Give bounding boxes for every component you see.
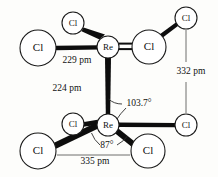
atom-label: Cl <box>182 120 191 130</box>
structure-canvas: Cl Cl Re Cl Cl Cl <box>0 0 218 177</box>
angle-re-re-cl: 103.7° <box>126 98 151 108</box>
atom-label: Cl <box>69 119 78 129</box>
bond-re-upper-cl-right-big-a <box>119 43 133 45</box>
atom-cl-top-small: Cl <box>62 12 84 34</box>
bond-re-lower-cl-mid-right <box>119 122 176 127</box>
angle-cl-re-cl: 87° <box>100 140 114 150</box>
measurement-cl-cl-bottom: 335 pm <box>81 156 110 166</box>
atom-cl-upper-right-big: Cl <box>132 30 166 64</box>
bond-re-re <box>105 58 111 115</box>
atom-label: Re <box>103 120 113 130</box>
measurement-re-re-bond: 224 pm <box>53 83 82 93</box>
atom-label: Cl <box>144 40 154 52</box>
atom-label: Cl <box>69 18 78 28</box>
measurement-group: 229 pm 224 pm 332 pm 335 pm 103.7° 87° <box>53 55 206 166</box>
atom-label: Cl <box>33 144 43 156</box>
atom-re-lower: Re <box>97 114 119 136</box>
atom-cl-lower-small: Cl <box>62 113 84 135</box>
atom-cl-top-right: Cl <box>175 7 197 29</box>
angle-arc-103-b <box>117 108 126 119</box>
atom-label: Re <box>103 42 113 52</box>
atom-re-upper: Re <box>97 36 119 58</box>
bond-re-upper-cl-left <box>56 45 99 50</box>
measurement-cl-cl-right: 332 pm <box>177 66 206 76</box>
measurement-re-cl-upper: 229 pm <box>63 55 92 65</box>
atom-label: Cl <box>143 144 153 156</box>
bond-cl-right-big-cl-corner <box>160 22 179 38</box>
bond-re-upper-cl-right-big-b <box>119 48 133 50</box>
atom-cl-mid-right: Cl <box>175 114 197 136</box>
atom-label: Cl <box>182 13 191 23</box>
atom-cl-upper-left: Cl <box>20 30 56 66</box>
angle-arc-87-left <box>92 133 101 145</box>
angle-arc-103 <box>109 99 123 104</box>
atom-cl-bottom-left: Cl <box>20 133 56 169</box>
atom-label: Cl <box>33 41 43 53</box>
atom-cl-bottom-right: Cl <box>131 134 165 168</box>
chemical-structure-diagram: Cl Cl Re Cl Cl Cl <box>0 0 218 177</box>
